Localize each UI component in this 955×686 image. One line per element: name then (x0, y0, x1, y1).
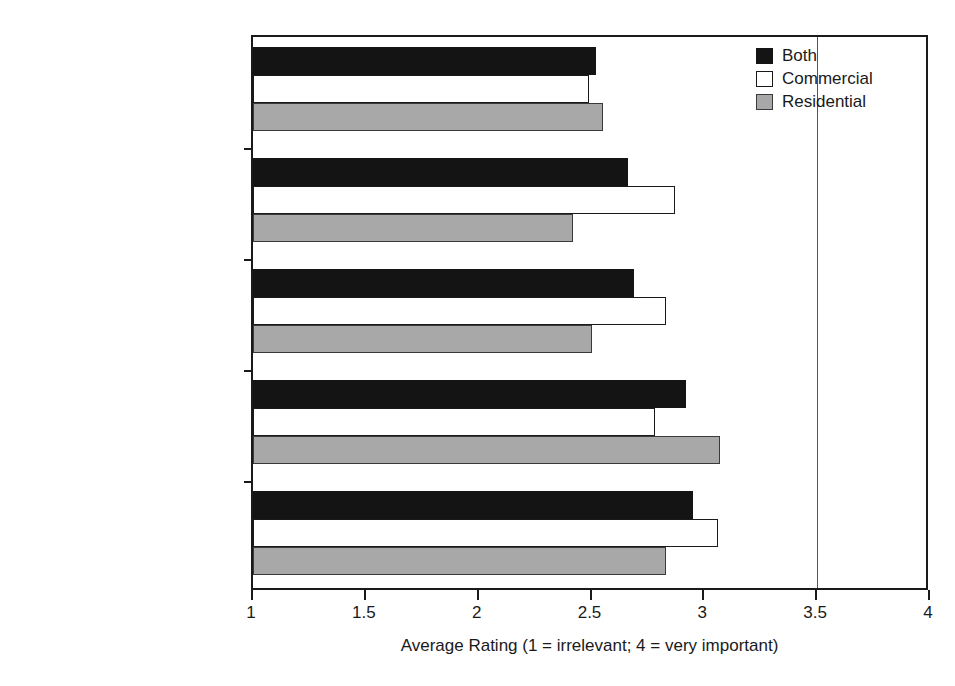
bar-residential (253, 214, 573, 242)
x-axis-tick-label: 1.5 (352, 603, 376, 623)
legend-swatch-residential (756, 94, 773, 110)
bar-commercial (253, 297, 666, 325)
bar-both (253, 380, 686, 408)
legend-item: Commercial (756, 67, 921, 90)
legend-label: Residential (782, 92, 866, 111)
legend-label: Commercial (782, 69, 873, 88)
plot-area (251, 35, 928, 590)
bar-group (253, 370, 926, 481)
bar-residential (253, 103, 603, 131)
x-axis-tick (815, 590, 817, 600)
bar-both (253, 491, 693, 519)
y-axis-tick (244, 148, 253, 150)
bar-both (253, 158, 628, 186)
x-axis-tick-label: 4 (923, 603, 932, 623)
y-axis-tick (244, 370, 253, 372)
bar-chart: RemediationChoice of materialsConstructi… (0, 0, 955, 686)
y-axis-tick (244, 259, 253, 261)
bar-residential (253, 325, 592, 353)
y-axis-tick (244, 481, 253, 483)
bar-commercial (253, 75, 589, 103)
x-axis-tick (477, 590, 479, 600)
legend-swatch-both (756, 48, 773, 64)
legend-label: Both (782, 46, 817, 65)
x-axis-tick (590, 590, 592, 600)
x-axis-tick-label: 2 (472, 603, 481, 623)
bar-group (253, 481, 926, 592)
x-axis-tick-label: 3 (698, 603, 707, 623)
bar-commercial (253, 408, 655, 436)
bar-group (253, 259, 926, 370)
legend: BothCommercialResidential (756, 44, 921, 113)
bar-group (253, 148, 926, 259)
bar-residential (253, 547, 666, 575)
bar-residential (253, 436, 720, 464)
bar-both (253, 47, 596, 75)
x-axis-tick (364, 590, 366, 600)
legend-swatch-commercial (756, 71, 773, 87)
bar-commercial (253, 519, 718, 547)
x-axis-tick-label: 1 (246, 603, 255, 623)
legend-item: Residential (756, 90, 921, 113)
bar-both (253, 269, 634, 297)
x-axis-tick (928, 590, 930, 600)
x-axis-tick-label: 3.5 (803, 603, 827, 623)
x-axis-title: Average Rating (1 = irrelevant; 4 = very… (251, 636, 928, 656)
bar-commercial (253, 186, 675, 214)
x-axis-tick (251, 590, 253, 600)
x-axis-tick-label: 2.5 (578, 603, 602, 623)
x-axis-tick (702, 590, 704, 600)
legend-item: Both (756, 44, 921, 67)
